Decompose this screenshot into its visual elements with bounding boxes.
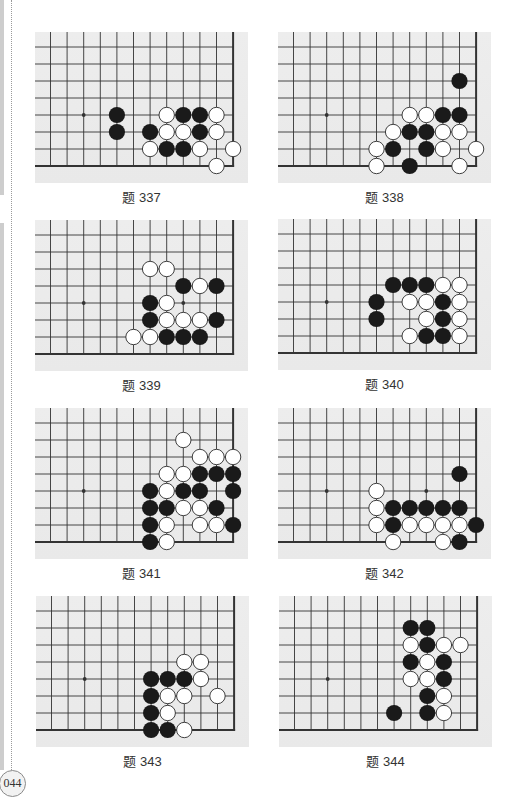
white-stone: [435, 141, 450, 156]
white-stone: [369, 517, 384, 532]
star-point: [82, 113, 86, 117]
board-svg: [278, 219, 491, 370]
white-stone: [160, 688, 175, 703]
black-stone: [435, 500, 451, 516]
black-stone: [175, 141, 191, 157]
white-stone: [420, 671, 435, 686]
white-stone: [177, 722, 192, 737]
black-stone: [176, 671, 192, 687]
black-stone: [192, 329, 208, 345]
white-stone: [159, 107, 174, 122]
problem-caption: 题 341: [35, 565, 248, 583]
black-stone: [143, 722, 159, 738]
star-point: [325, 113, 329, 117]
board-svg: [279, 596, 492, 747]
white-stone: [159, 517, 174, 532]
white-stone: [436, 688, 451, 703]
white-stone: [385, 534, 400, 549]
white-stone: [403, 637, 418, 652]
star-point: [181, 301, 185, 305]
go-board: [278, 408, 491, 559]
black-stone: [418, 141, 434, 157]
white-stone: [452, 124, 467, 139]
star-point: [83, 677, 87, 681]
black-stone: [159, 329, 175, 345]
white-stone: [159, 534, 174, 549]
black-stone: [385, 277, 401, 293]
white-stone: [420, 654, 435, 669]
black-stone: [385, 517, 401, 533]
white-stone: [160, 705, 175, 720]
white-stone: [209, 107, 224, 122]
white-stone: [435, 277, 450, 292]
black-stone: [225, 517, 241, 533]
white-stone: [209, 158, 224, 173]
black-stone: [419, 705, 435, 721]
black-stone: [143, 688, 159, 704]
white-stone: [192, 278, 207, 293]
white-stone: [193, 671, 208, 686]
white-stone: [402, 517, 417, 532]
black-stone: [402, 124, 418, 140]
white-stone: [159, 261, 174, 276]
white-stone: [452, 328, 467, 343]
go-board: [35, 220, 248, 371]
problem-caption: 题 338: [278, 189, 491, 207]
go-board: [35, 32, 248, 183]
black-stone: [208, 500, 224, 516]
black-stone: [159, 500, 175, 516]
black-stone: [403, 620, 419, 636]
white-stone: [369, 500, 384, 515]
page-edge-strip-top: [0, 0, 4, 195]
book-page: 题 337 题 338 题 339 题 340 题 341 题 342 题 34…: [0, 0, 516, 798]
white-stone: [435, 517, 450, 532]
black-stone: [142, 517, 158, 533]
white-stone: [452, 311, 467, 326]
black-stone: [192, 483, 208, 499]
white-stone: [193, 654, 208, 669]
black-stone: [368, 294, 384, 310]
white-stone: [385, 124, 400, 139]
black-stone: [142, 483, 158, 499]
black-stone: [208, 466, 224, 482]
star-point: [82, 301, 86, 305]
white-stone: [176, 466, 191, 481]
white-stone: [402, 328, 417, 343]
black-stone: [451, 500, 467, 516]
black-stone: [451, 466, 467, 482]
black-stone: [160, 722, 176, 738]
white-stone: [369, 141, 384, 156]
black-stone: [386, 705, 402, 721]
black-stone: [159, 141, 175, 157]
star-point: [424, 489, 428, 493]
black-stone: [403, 654, 419, 670]
white-stone: [177, 688, 192, 703]
problem-card-342: 题 342: [278, 408, 491, 588]
white-stone: [468, 141, 483, 156]
black-stone: [385, 500, 401, 516]
black-stone: [436, 671, 452, 687]
white-stone: [142, 329, 157, 344]
problem-caption: 题 337: [35, 189, 248, 207]
white-stone: [435, 534, 450, 549]
black-stone: [451, 534, 467, 550]
margin-dotted-rule: [11, 0, 12, 770]
white-stone: [159, 466, 174, 481]
black-stone: [402, 158, 418, 174]
white-stone: [177, 654, 192, 669]
black-stone: [402, 277, 418, 293]
black-stone: [419, 637, 435, 653]
white-stone: [142, 141, 157, 156]
problem-caption: 题 339: [35, 377, 248, 395]
black-stone: [385, 141, 401, 157]
black-stone: [208, 278, 224, 294]
black-stone: [435, 294, 451, 310]
white-stone: [369, 158, 384, 173]
white-stone: [436, 637, 451, 652]
white-stone: [142, 261, 157, 276]
white-stone: [209, 124, 224, 139]
black-stone: [175, 107, 191, 123]
black-stone: [402, 500, 418, 516]
black-stone: [451, 107, 467, 123]
white-stone: [192, 312, 207, 327]
